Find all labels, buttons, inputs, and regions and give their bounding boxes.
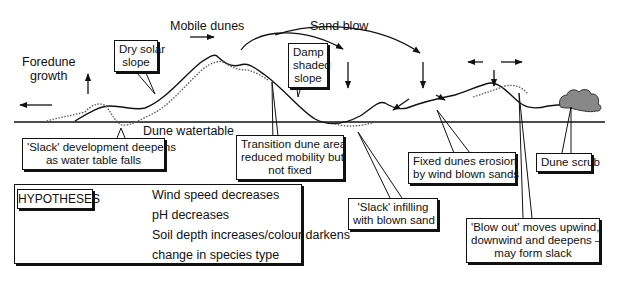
callout-dune-scrub: Dune scrub xyxy=(536,153,592,172)
hypothesis-item: change in species type xyxy=(152,248,279,262)
dune-scrub-icon xyxy=(559,90,600,112)
callout-slack-infilling: 'Slack' infilling with blown sand xyxy=(348,198,438,230)
dune-watertable-label: Dune watertable xyxy=(143,124,234,138)
callout-text: as water table falls xyxy=(27,154,160,167)
callout-text: Fixed dunes erosion xyxy=(413,155,511,168)
callout-text: 'Slack' development deepens xyxy=(27,141,160,154)
callout-text: Dune scrub xyxy=(541,156,587,169)
callout-text: 'Blow out' moves upwind, xyxy=(471,221,595,234)
foredune-growth-line2: growth xyxy=(22,69,76,83)
hypotheses-title: HYPOTHESES xyxy=(17,189,93,209)
dune-scrub-pointer xyxy=(562,107,571,153)
hypothesis-item: Wind speed decreases xyxy=(152,188,279,202)
callout-fixed-dunes-erosion: Fixed dunes erosion by wind blown sands xyxy=(408,152,516,184)
callout-text: may form slack xyxy=(471,247,595,260)
fixed-dune-stipple xyxy=(473,85,528,97)
callout-slack-development: 'Slack' development deepens as water tab… xyxy=(22,138,165,170)
callout-text: by wind blown sands xyxy=(413,168,511,181)
callout-text: with blown sand xyxy=(353,214,433,227)
hypothesis-item: Soil depth increases/colour darkens xyxy=(152,228,350,242)
slack-infill-pointer xyxy=(358,132,402,198)
callout-text: Dry solar xyxy=(119,43,153,56)
callout-transition-dune: Transition dune area reduced mobility bu… xyxy=(236,135,344,180)
foredune-growth-line1: Foredune xyxy=(22,55,76,69)
callout-text: shaded xyxy=(293,59,323,72)
callout-dry-solar-slope: Dry solar slope xyxy=(114,40,158,72)
mobile-dunes-label: Mobile dunes xyxy=(170,19,244,33)
callout-blow-out: 'Blow out' moves upwind, downwind and de… xyxy=(466,218,600,263)
callout-text: 'Slack' infilling xyxy=(353,201,433,214)
slack-dev-pointer xyxy=(117,128,125,138)
callout-text: slope xyxy=(119,56,153,69)
callout-text: Transition dune area xyxy=(241,138,339,151)
hypothesis-item: pH decreases xyxy=(152,208,229,222)
foredune-growth-label: Foredune growth xyxy=(22,55,76,83)
callout-text: slope xyxy=(293,72,323,85)
blowout-pointer xyxy=(519,93,532,218)
sand-blow-label: Sand blow xyxy=(310,19,368,33)
callout-text: Damp xyxy=(293,46,323,59)
callout-text: reduced mobility but xyxy=(241,151,339,164)
callout-text: not fixed xyxy=(241,164,339,177)
callout-text: downwind and deepens – xyxy=(471,234,595,247)
callout-damp-shaded-slope: Damp shaded slope xyxy=(288,43,328,88)
fixed-erosion-pointer xyxy=(437,110,470,153)
